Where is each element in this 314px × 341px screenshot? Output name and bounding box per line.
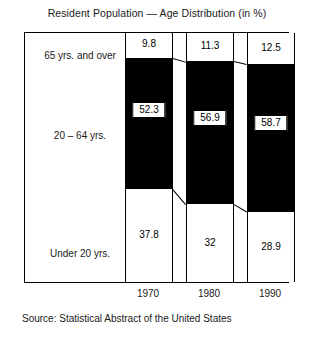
value-under-20-1990: 28.9 (248, 241, 294, 252)
bar-column-1970[interactable]: 9.8 52.3 37.8 (125, 33, 173, 282)
value-under-20-1970: 37.8 (126, 229, 172, 240)
connector-line-top-1970-1980 (173, 58, 186, 63)
chart-plot-frame: 65 yrs. and over 20 – 64 yrs. Under 20 y… (24, 32, 289, 283)
bar-column-1990[interactable]: 12.5 58.7 28.9 (247, 33, 295, 282)
value-over-65-1970: 9.8 (126, 38, 172, 49)
axis-label-1980: 1980 (185, 288, 233, 299)
value-over-65-1980: 11.3 (187, 40, 233, 51)
row-label-over-65: 65 yrs. and over (31, 50, 129, 61)
bar-segment-20-64-1990 (248, 64, 294, 211)
value-over-65-1990: 12.5 (248, 42, 294, 53)
source-note: Source: Statistical Abstract of the Unit… (22, 313, 232, 324)
row-label-under-20: Under 20 yrs. (31, 248, 129, 259)
axis-label-1970: 1970 (124, 288, 172, 299)
page-title: Resident Population — Age Distribution (… (0, 7, 314, 19)
bar-segment-20-64-1980 (187, 61, 233, 204)
value-20-64-1970: 52.3 (132, 102, 165, 118)
bar-segment-20-64-1970 (126, 58, 172, 189)
bar-column-1980[interactable]: 11.3 56.9 32 (186, 33, 234, 282)
value-under-20-1980: 32 (187, 237, 233, 248)
value-20-64-1980: 56.9 (193, 110, 226, 126)
row-label-20-64: 20 – 64 yrs. (31, 130, 129, 141)
axis-label-1990: 1990 (246, 288, 294, 299)
connector-line-bottom-1970-1980 (172, 189, 186, 205)
connector-line-top-1980-1990 (234, 61, 247, 65)
value-20-64-1990: 58.7 (254, 115, 287, 131)
chart-inner-area: 65 yrs. and over 20 – 64 yrs. Under 20 y… (25, 33, 288, 282)
connector-line-bottom-1980-1990 (233, 204, 246, 212)
